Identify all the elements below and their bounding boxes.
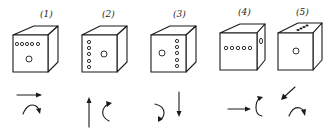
- cube-1-front-face: [13, 35, 48, 72]
- cube-2: (2): [82, 9, 127, 72]
- cube-rotation-diagram: (1) (2) (3): [0, 0, 335, 132]
- rotate-upward-c-icon: [256, 96, 263, 116]
- cube-1-label: (1): [40, 9, 53, 19]
- cube-4: (4): [220, 7, 265, 70]
- cube-1-large-dot: [26, 56, 32, 62]
- cube-5-label: (5): [296, 7, 309, 17]
- cube-4-label: (4): [238, 7, 251, 17]
- cube-3-front-face: [151, 35, 186, 72]
- arrow-right-icon: [228, 107, 251, 112]
- motion-2: [87, 97, 113, 127]
- rotate-clockwise-icon: [23, 105, 41, 114]
- cube-5: (5): [278, 7, 322, 70]
- rotate-counterclockwise-icon: [103, 101, 112, 121]
- cube-3: (3): [151, 9, 196, 72]
- arrow-down-left-icon: [281, 87, 295, 100]
- rotate-clockwise-down-icon: [155, 104, 164, 122]
- cube-3-large-dot: [159, 50, 165, 56]
- arrow-down-icon: [177, 92, 182, 117]
- cube-2-large-dot: [101, 51, 107, 57]
- motion-5: [281, 87, 306, 116]
- motion-3: [155, 92, 182, 122]
- arrow-up-icon: [87, 97, 92, 127]
- arrow-right-icon: [17, 93, 42, 98]
- cube-4-right-face: [257, 24, 265, 70]
- cube-1: (1): [13, 9, 58, 72]
- motion-1: [17, 93, 42, 115]
- cube-5-large-dot: [293, 48, 299, 54]
- cube-3-label: (3): [173, 9, 186, 19]
- cube-4-front-face: [220, 33, 257, 70]
- motion-4: [228, 96, 263, 116]
- rotate-clockwise-icon: [289, 108, 306, 116]
- cube-2-label: (2): [102, 9, 115, 19]
- cube-4-side-oval: [260, 38, 263, 44]
